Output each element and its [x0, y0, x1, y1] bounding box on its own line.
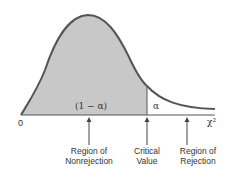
annotation-line2: Nonrejection	[56, 156, 122, 166]
annotation-rejection: Region of Rejection	[170, 146, 226, 166]
x-axis-label: χ²	[207, 117, 216, 127]
rejection-area-label: α	[153, 101, 159, 111]
annotation-line2: Value	[127, 156, 167, 166]
origin-label: 0	[18, 118, 23, 128]
annotation-critical-value: Critical Value	[127, 146, 167, 166]
annotation-line1: Region of	[56, 146, 122, 156]
nonrejection-region-shade	[21, 15, 147, 115]
annotation-line1: Region of	[170, 146, 226, 156]
arrow-nonrejection	[87, 117, 92, 145]
arrow-rejection	[185, 117, 190, 145]
annotation-nonrejection: Region of Nonrejection	[56, 146, 122, 166]
annotation-line1: Critical	[127, 146, 167, 156]
arrow-critical	[145, 117, 150, 145]
annotation-line2: Rejection	[170, 156, 226, 166]
nonrejection-area-label: (1 − α)	[75, 101, 107, 111]
